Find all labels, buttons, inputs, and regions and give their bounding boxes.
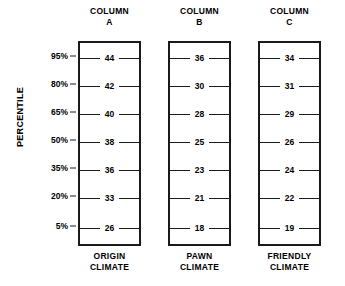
column-c-rule-right-2 — [299, 114, 319, 115]
column-b-rule-right-5 — [209, 198, 229, 199]
column-b-value-6: 18 — [190, 224, 209, 233]
column-c-rule-left-4 — [260, 170, 280, 171]
percentile-tick-dash-6 — [70, 226, 76, 227]
column-b-rule-right-0 — [209, 58, 229, 59]
column-a-rule-right-1 — [119, 86, 139, 87]
column-b-value-1: 30 — [190, 82, 209, 91]
column-b-rule-left-6 — [170, 228, 190, 229]
column-a-rule-left-3 — [80, 142, 100, 143]
column-c-header: COLUMN C — [258, 6, 321, 28]
column-a-value-4: 36 — [100, 166, 119, 175]
column-c-rule-left-5 — [260, 198, 280, 199]
column-c-rule-right-4 — [299, 170, 319, 171]
percentile-tick-label-1: 80% — [24, 79, 68, 89]
column-b-rule-right-4 — [209, 170, 229, 171]
column-a-value-1: 42 — [100, 82, 119, 91]
column-c-header-word: COLUMN — [270, 6, 309, 16]
column-b-footer-line1: PAWN — [186, 251, 212, 261]
column-a-rule-left-2 — [80, 114, 100, 115]
column-b-rule-right-1 — [209, 86, 229, 87]
percentile-tick-dash-3 — [70, 140, 76, 141]
column-a-header: COLUMN A — [78, 6, 141, 28]
column-a-footer-line1: ORIGIN — [93, 251, 125, 261]
column-b-rule-right-2 — [209, 114, 229, 115]
column-b-header-word: COLUMN — [180, 6, 219, 16]
column-b-value-3: 25 — [190, 138, 209, 147]
percentile-tick-dash-2 — [70, 112, 76, 113]
column-c-value-5: 22 — [280, 194, 299, 203]
column-b-box: 36 30 28 25 23 — [168, 41, 231, 246]
column-c-rule-right-0 — [299, 58, 319, 59]
column-b-header: COLUMN B — [168, 6, 231, 28]
column-c-rule-left-3 — [260, 142, 280, 143]
column-c-rule-left-6 — [260, 228, 280, 229]
column-c-value-0: 34 — [280, 54, 299, 63]
column-a-rule-left-6 — [80, 228, 100, 229]
column-b-value-0: 36 — [190, 54, 209, 63]
column-c-value-6: 19 — [280, 224, 299, 233]
column-a-rule-left-1 — [80, 86, 100, 87]
percentile-tick-label-3: 50% — [24, 135, 68, 145]
column-b-rule-left-5 — [170, 198, 190, 199]
column-b-rule-left-2 — [170, 114, 190, 115]
column-a-value-6: 26 — [100, 224, 119, 233]
percentile-tick-dash-4 — [70, 168, 76, 169]
percentile-tick-label-2: 65% — [24, 107, 68, 117]
column-c-rule-left-1 — [260, 86, 280, 87]
percentile-tick-label-4: 35% — [24, 163, 68, 173]
column-a-rule-left-0 — [80, 58, 100, 59]
percentile-tick-dash-5 — [70, 196, 76, 197]
column-c-value-1: 31 — [280, 82, 299, 91]
column-b-rule-left-3 — [170, 142, 190, 143]
column-c-footer-line1: FRIENDLY — [267, 251, 311, 261]
column-c-footer: FRIENDLY CLIMATE — [258, 251, 321, 273]
percentile-tick-label-0: 95% — [24, 51, 68, 61]
column-a-value-0: 44 — [100, 54, 119, 63]
column-b-value-5: 21 — [190, 194, 209, 203]
percentile-scale-chart: PERCENTILE 95% 80% 65% 50% 35% 20% 5% CO… — [0, 0, 345, 286]
column-c-value-3: 26 — [280, 138, 299, 147]
column-a-rule-right-6 — [119, 228, 139, 229]
column-b-rule-right-6 — [209, 228, 229, 229]
column-c-rule-left-0 — [260, 58, 280, 59]
column-a-value-2: 40 — [100, 110, 119, 119]
percentile-tick-dash-1 — [70, 84, 76, 85]
column-b-rule-left-1 — [170, 86, 190, 87]
column-a-rule-left-5 — [80, 198, 100, 199]
column-a-header-word: COLUMN — [90, 6, 129, 16]
column-b-rule-left-0 — [170, 58, 190, 59]
percentile-tick-dash-0 — [70, 56, 76, 57]
column-a-footer: ORIGIN CLIMATE — [78, 251, 141, 273]
column-b-footer-line2: CLIMATE — [168, 262, 231, 273]
column-c-box: 34 31 29 26 24 — [258, 41, 321, 246]
column-a-rule-left-4 — [80, 170, 100, 171]
percentile-tick-label-5: 20% — [24, 191, 68, 201]
column-a-box: 44 42 40 38 36 — [78, 41, 141, 246]
column-b-header-letter: B — [168, 17, 231, 28]
column-c-value-4: 24 — [280, 166, 299, 175]
column-a-header-letter: A — [78, 17, 141, 28]
column-c-footer-line2: CLIMATE — [258, 262, 321, 273]
column-a-value-5: 33 — [100, 194, 119, 203]
column-b-value-2: 28 — [190, 110, 209, 119]
column-a-rule-right-0 — [119, 58, 139, 59]
column-b-footer: PAWN CLIMATE — [168, 251, 231, 273]
column-a-rule-right-2 — [119, 114, 139, 115]
column-c-value-2: 29 — [280, 110, 299, 119]
column-a-rule-right-5 — [119, 198, 139, 199]
column-c-rule-right-3 — [299, 142, 319, 143]
column-c-rule-left-2 — [260, 114, 280, 115]
column-a-rule-right-4 — [119, 170, 139, 171]
column-b-rule-left-4 — [170, 170, 190, 171]
column-a-rule-right-3 — [119, 142, 139, 143]
column-b-rule-right-3 — [209, 142, 229, 143]
column-c-rule-right-6 — [299, 228, 319, 229]
column-a-value-3: 38 — [100, 138, 119, 147]
column-c-rule-right-5 — [299, 198, 319, 199]
percentile-tick-label-6: 5% — [24, 221, 68, 231]
column-c-header-letter: C — [258, 17, 321, 28]
column-b-value-4: 23 — [190, 166, 209, 175]
column-c-rule-right-1 — [299, 86, 319, 87]
column-a-footer-line2: CLIMATE — [78, 262, 141, 273]
